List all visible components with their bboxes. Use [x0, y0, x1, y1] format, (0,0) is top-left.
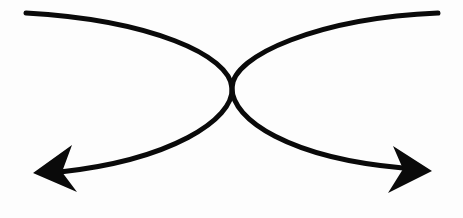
right-curve-line [232, 13, 438, 168]
diagram-canvas [0, 0, 463, 218]
crossing-arrows-diagram [0, 0, 463, 218]
left-curved-arrow [26, 13, 232, 192]
left-curve-line [26, 13, 232, 172]
right-curved-arrow [232, 13, 438, 193]
